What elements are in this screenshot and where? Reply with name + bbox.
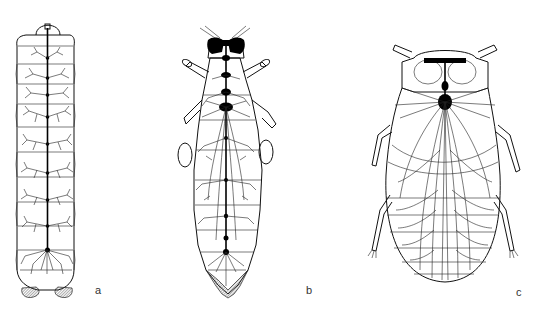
panel-label-a: a — [95, 285, 101, 296]
panel-label-c: c — [516, 287, 522, 298]
nervous-system-figure: a b c — [0, 0, 539, 310]
panel-b-elongate-insect-diagram — [178, 26, 276, 298]
panel-label-b: b — [306, 285, 312, 296]
panel-a-larva-diagram — [16, 24, 75, 298]
panel-c-broad-insect-diagram — [368, 45, 520, 282]
